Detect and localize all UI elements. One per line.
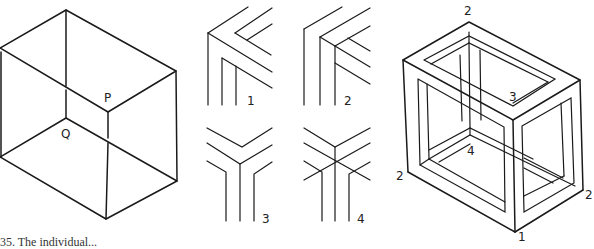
figure-caption: 35. The individual... xyxy=(0,236,97,248)
label-cube-bottom: 1 xyxy=(518,231,526,243)
label-cube-left: 2 xyxy=(396,170,404,182)
label-detail-1: 1 xyxy=(247,95,255,107)
label-cube-inner-top: 3 xyxy=(509,91,517,103)
label-detail-3: 3 xyxy=(262,213,270,225)
label-p: P xyxy=(104,92,111,104)
label-detail-4: 4 xyxy=(357,213,365,225)
corner-detail-3 xyxy=(207,128,272,221)
label-q: Q xyxy=(61,128,70,140)
corner-detail-1 xyxy=(208,7,272,105)
wireframe-box xyxy=(0,10,177,219)
corner-detail-2 xyxy=(304,7,370,105)
label-cube-inner-bottom: 4 xyxy=(467,145,475,157)
label-cube-top: 2 xyxy=(464,5,472,17)
corner-detail-4 xyxy=(304,128,370,221)
label-cube-right: 2 xyxy=(585,189,593,201)
frame-cube xyxy=(403,22,583,232)
label-detail-2: 2 xyxy=(344,95,352,107)
